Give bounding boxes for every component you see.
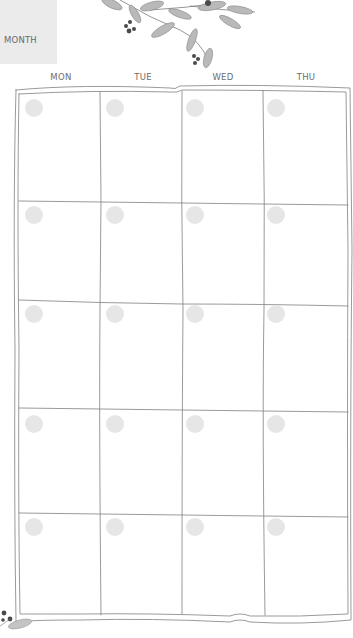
calendar-cell[interactable]	[20, 93, 100, 201]
date-circle	[25, 518, 43, 536]
date-circle	[186, 305, 204, 323]
date-circle	[186, 415, 204, 433]
date-circle	[25, 99, 43, 117]
date-circle	[25, 206, 43, 224]
calendar-cell[interactable]	[101, 303, 182, 409]
calendar-cell[interactable]	[101, 515, 182, 614]
calendar-cell[interactable]	[264, 303, 347, 409]
calendar-cell[interactable]	[101, 202, 182, 302]
calendar-cell[interactable]	[20, 410, 100, 514]
calendar-cell[interactable]	[183, 303, 263, 409]
calendar-cell[interactable]	[264, 515, 347, 614]
calendar-cell[interactable]	[101, 410, 182, 514]
calendar-cell[interactable]	[183, 202, 263, 302]
date-circle	[267, 305, 285, 323]
date-circle	[106, 206, 124, 224]
calendar-cell[interactable]	[20, 303, 100, 409]
calendar-cell[interactable]	[183, 515, 263, 614]
calendar-cell[interactable]	[183, 93, 263, 201]
date-circle	[267, 415, 285, 433]
date-circle	[186, 206, 204, 224]
calendar-cell[interactable]	[101, 93, 182, 201]
olive-berries-icon	[0, 608, 34, 638]
calendar-cell[interactable]	[264, 93, 347, 201]
date-circle	[106, 415, 124, 433]
date-circle	[25, 415, 43, 433]
date-circle	[267, 518, 285, 536]
calendar-cell[interactable]	[264, 410, 347, 514]
date-circle	[186, 99, 204, 117]
date-circle	[186, 518, 204, 536]
date-circle	[267, 99, 285, 117]
date-circle	[267, 206, 285, 224]
calendar-cell[interactable]	[20, 202, 100, 302]
calendar-cell[interactable]	[20, 515, 100, 614]
date-circle	[106, 305, 124, 323]
date-circle	[106, 99, 124, 117]
calendar-cell[interactable]	[183, 410, 263, 514]
date-circle	[25, 305, 43, 323]
calendar-cell[interactable]	[264, 202, 347, 302]
date-circle	[106, 518, 124, 536]
